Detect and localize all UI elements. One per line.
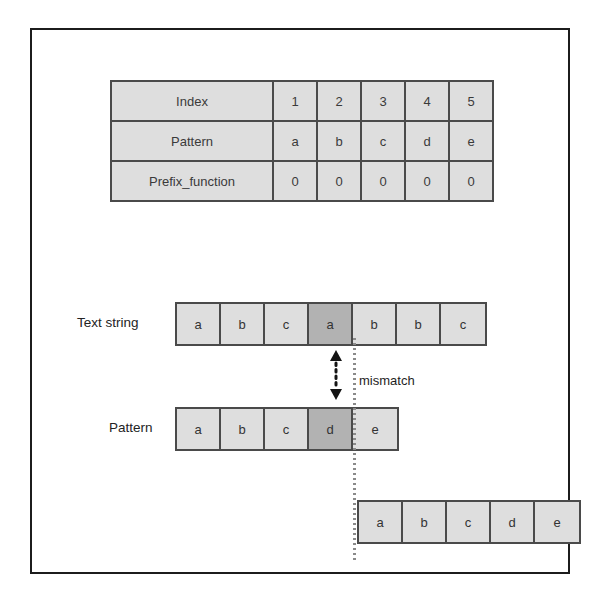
- text-cell-2: b: [221, 304, 265, 344]
- text-cell-6: b: [397, 304, 441, 344]
- prefix-function-table: Index 1 2 3 4 5 Pattern a b c d e Prefix…: [110, 80, 494, 202]
- index-cell-2: 2: [317, 81, 361, 121]
- double-headed-vertical-dotted-arrow-icon: [328, 350, 344, 400]
- pattern-cell-2: b: [317, 121, 361, 161]
- row-header-index: Index: [111, 81, 273, 121]
- shifted-pattern-cell-5: e: [535, 502, 579, 542]
- prefix-function-cell-2: 0: [317, 161, 361, 201]
- index-cell-4: 4: [405, 81, 449, 121]
- shifted-pattern-row: a b c d e: [357, 500, 581, 544]
- vertical-dotted-line-icon: [353, 338, 356, 563]
- shifted-pattern-cell-4: d: [491, 502, 535, 542]
- shifted-pattern-cell-2: b: [403, 502, 447, 542]
- index-cell-1: 1: [273, 81, 317, 121]
- pattern-cell-1: a: [273, 121, 317, 161]
- pattern-row-cell-2: b: [221, 409, 265, 449]
- text-cell-4-highlighted: a: [309, 304, 353, 344]
- index-cell-5: 5: [449, 81, 493, 121]
- pattern-row-cell-1: a: [177, 409, 221, 449]
- row-header-prefix-function: Prefix_function: [111, 161, 273, 201]
- diagram-frame: Index 1 2 3 4 5 Pattern a b c d e Prefix…: [30, 28, 570, 574]
- text-cell-1: a: [177, 304, 221, 344]
- pattern-row-cell-3: c: [265, 409, 309, 449]
- prefix-function-cell-4: 0: [405, 161, 449, 201]
- pattern-row-label: Pattern: [109, 420, 153, 435]
- shifted-pattern-cell-1: a: [359, 502, 403, 542]
- pattern-row-cell-5: e: [353, 409, 397, 449]
- table-row: Pattern a b c d e: [111, 121, 493, 161]
- text-string-label: Text string: [77, 315, 139, 330]
- pattern-cell-3: c: [361, 121, 405, 161]
- pattern-cell-4: d: [405, 121, 449, 161]
- pattern-row: a b c d e: [175, 407, 399, 451]
- text-string-row: a b c a b b c: [175, 302, 487, 346]
- table-row: Index 1 2 3 4 5: [111, 81, 493, 121]
- shifted-pattern-cell-3: c: [447, 502, 491, 542]
- text-cell-5: b: [353, 304, 397, 344]
- table-row: Prefix_function 0 0 0 0 0: [111, 161, 493, 201]
- text-cell-7: c: [441, 304, 485, 344]
- prefix-function-cell-5: 0: [449, 161, 493, 201]
- pattern-cell-5: e: [449, 121, 493, 161]
- diagram-canvas: Index 1 2 3 4 5 Pattern a b c d e Prefix…: [0, 0, 595, 601]
- prefix-function-cell-1: 0: [273, 161, 317, 201]
- index-cell-3: 3: [361, 81, 405, 121]
- text-cell-3: c: [265, 304, 309, 344]
- mismatch-label: mismatch: [359, 373, 415, 388]
- prefix-function-cell-3: 0: [361, 161, 405, 201]
- pattern-row-cell-4-highlighted: d: [309, 409, 353, 449]
- row-header-pattern: Pattern: [111, 121, 273, 161]
